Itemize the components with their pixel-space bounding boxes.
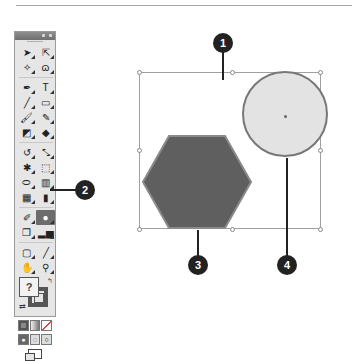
callout-4: 4 xyxy=(277,255,297,275)
shape-builder-tool[interactable]: ⬭ xyxy=(17,175,36,190)
draw-normal-button[interactable]: ● xyxy=(18,334,29,345)
hand-tool[interactable]: ✋ xyxy=(17,260,36,275)
tool-flyout-indicator xyxy=(50,235,54,239)
gradient-icon: ▮ xyxy=(43,193,49,203)
draw-mode-row: ● ◌ ○ xyxy=(18,334,52,345)
swap-fill-stroke-icon[interactable]: ⇄ xyxy=(19,302,26,311)
paintbrush-tool[interactable]: 🖌 xyxy=(17,110,36,125)
tool-flyout-indicator xyxy=(50,120,54,124)
collapse-panel-icon[interactable] xyxy=(42,34,45,37)
tool-separator xyxy=(19,240,53,243)
callout-2-leader xyxy=(50,189,76,191)
tool-grid: ➤⇱✧ɷ✒T╱▭🖌✎◩◆↺⤡✱⬚⬭▥▦▮✐●❐▂▅▢╱✋⚲ xyxy=(15,45,55,275)
symbol-sprayer-tool[interactable]: ❐ xyxy=(17,225,36,240)
pencil-icon: ✎ xyxy=(42,113,50,123)
bounding-handle-mr[interactable] xyxy=(318,148,323,153)
tool-flyout-indicator xyxy=(31,270,35,274)
slice-tool[interactable]: ╱ xyxy=(36,245,55,260)
pencil-tool[interactable]: ✎ xyxy=(36,110,55,125)
perspective-grid-icon: ▥ xyxy=(41,178,50,188)
blob-brush-icon: ◩ xyxy=(22,128,31,138)
default-fill-stroke-icon[interactable]: ↰ xyxy=(47,277,53,285)
bounding-handle-br[interactable] xyxy=(318,227,323,232)
callout-2: 2 xyxy=(75,180,95,200)
artboard-icon: ▢ xyxy=(22,248,31,258)
draw-behind-button[interactable]: ◌ xyxy=(30,334,41,345)
zoom-tool[interactable]: ⚲ xyxy=(36,260,55,275)
tool-flyout-indicator xyxy=(50,90,54,94)
symbol-sprayer-icon: ❐ xyxy=(22,228,31,238)
color-mode-button[interactable] xyxy=(18,320,29,331)
direct-selection-tool[interactable]: ⇱ xyxy=(36,45,55,60)
gradient-tool[interactable]: ▮ xyxy=(36,190,55,205)
tool-flyout-indicator xyxy=(31,185,35,189)
type-icon: T xyxy=(42,83,48,93)
scale-icon: ⤡ xyxy=(42,148,50,158)
shape-builder-icon: ⬭ xyxy=(22,178,31,188)
close-panel-icon[interactable] xyxy=(49,34,52,37)
tool-flyout-indicator xyxy=(31,220,35,224)
line-segment-icon: ╱ xyxy=(24,98,30,108)
none-mode-button[interactable] xyxy=(41,320,52,331)
tool-flyout-indicator xyxy=(50,55,54,59)
tool-flyout-indicator xyxy=(50,200,54,204)
rotate-tool[interactable]: ↺ xyxy=(17,145,36,160)
tool-flyout-indicator xyxy=(31,70,35,74)
column-graph-tool[interactable]: ▂▅ xyxy=(36,225,55,240)
tool-flyout-indicator xyxy=(50,255,54,259)
bounding-handle-tr[interactable] xyxy=(318,70,323,75)
tool-separator xyxy=(19,140,53,143)
blob-brush-tool[interactable]: ◩ xyxy=(17,125,36,140)
free-transform-icon: ⬚ xyxy=(41,163,50,173)
magic-wand-icon: ✧ xyxy=(23,63,31,73)
artboard-tool[interactable]: ▢ xyxy=(17,245,36,260)
eraser-icon: ◆ xyxy=(42,128,50,138)
screen-mode-button[interactable] xyxy=(28,349,42,359)
tool-flyout-indicator xyxy=(50,220,54,224)
circle-shape[interactable] xyxy=(242,71,328,157)
zoom-icon: ⚲ xyxy=(42,263,49,273)
fill-stroke-control: ? ⇄ ↰ xyxy=(19,277,53,317)
tool-flyout-indicator xyxy=(50,270,54,274)
hexagon-shape[interactable] xyxy=(141,134,253,230)
tool-flyout-indicator xyxy=(31,120,35,124)
scale-tool[interactable]: ⤡ xyxy=(36,145,55,160)
pen-icon: ✒ xyxy=(23,83,31,93)
tool-separator xyxy=(19,205,53,208)
gradient-mode-button[interactable] xyxy=(30,320,41,331)
selection-tool[interactable]: ➤ xyxy=(17,45,36,60)
type-tool[interactable]: T xyxy=(36,80,55,95)
tool-flyout-indicator xyxy=(31,170,35,174)
draw-inside-button[interactable]: ○ xyxy=(41,334,52,345)
pen-tool[interactable]: ✒ xyxy=(17,80,36,95)
lasso-tool[interactable]: ɷ xyxy=(36,60,55,75)
puppet-warp-tool[interactable]: ✱ xyxy=(17,160,36,175)
top-rule xyxy=(16,5,352,6)
bounding-handle-tl[interactable] xyxy=(137,70,142,75)
free-transform-tool[interactable]: ⬚ xyxy=(36,160,55,175)
tool-flyout-indicator xyxy=(50,155,54,159)
eyedropper-icon: ✐ xyxy=(23,213,31,223)
slice-icon: ╱ xyxy=(43,248,49,258)
perspective-grid-tool[interactable]: ▥ xyxy=(36,175,55,190)
callout-3-leader xyxy=(197,230,199,257)
color-mode-row xyxy=(18,320,52,331)
mesh-tool[interactable]: ▦ xyxy=(17,190,36,205)
panel-titlebar[interactable] xyxy=(15,32,55,40)
eraser-tool[interactable]: ◆ xyxy=(36,125,55,140)
rectangle-tool[interactable]: ▭ xyxy=(36,95,55,110)
tool-flyout-indicator xyxy=(50,170,54,174)
line-segment-tool[interactable]: ╱ xyxy=(17,95,36,110)
fill-swatch[interactable]: ? xyxy=(19,277,39,297)
tool-flyout-indicator xyxy=(31,255,35,259)
tool-flyout-indicator xyxy=(31,135,35,139)
bounding-handle-tm[interactable] xyxy=(230,70,235,75)
lasso-icon: ɷ xyxy=(42,63,50,73)
rectangle-icon: ▭ xyxy=(41,98,50,108)
eyedropper-tool[interactable]: ✐ xyxy=(17,210,36,225)
magic-wand-tool[interactable]: ✧ xyxy=(17,60,36,75)
live-paint-bucket-tool[interactable]: ● xyxy=(36,210,55,225)
callout-1: 1 xyxy=(213,33,233,53)
circle-center-point xyxy=(284,115,287,118)
direct-selection-icon: ⇱ xyxy=(42,48,50,58)
